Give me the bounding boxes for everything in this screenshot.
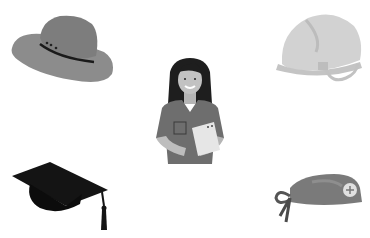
surgical-cap-icon — [272, 168, 364, 228]
graduation-cap-icon — [10, 160, 110, 232]
cowboy-hat-icon — [8, 8, 120, 84]
nurse-figure — [148, 58, 232, 166]
hard-hat-icon — [272, 8, 366, 82]
